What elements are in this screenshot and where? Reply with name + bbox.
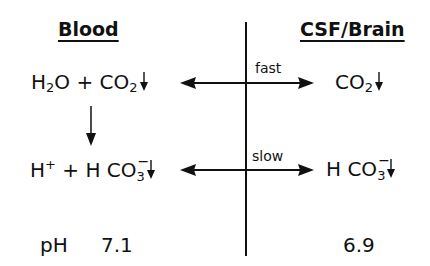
down-arrow-icon	[374, 70, 384, 92]
co2-co: CO	[335, 70, 365, 94]
bicarbonate-subscript: 3	[137, 169, 145, 184]
csf-brain-heading: CSF/Brain	[300, 18, 405, 40]
csf-hco3: H CO3−	[326, 157, 395, 181]
proton-charge: +	[45, 157, 56, 172]
bicarbonate-co: CO	[347, 157, 377, 181]
down-arrow-icon	[139, 70, 149, 92]
csf-co2: CO2	[335, 70, 383, 95]
bicarbonate-subscript: 3	[377, 168, 385, 183]
proton-h: H	[30, 158, 45, 182]
blood-h2o-co2-equation: H2O + CO2	[31, 70, 148, 95]
csf-ph-value: 6.9	[343, 233, 375, 257]
reaction-arrow-icon	[86, 106, 96, 146]
plus-sign: +	[76, 70, 93, 94]
down-arrow-icon	[386, 157, 396, 179]
blood-ph-value: 7.1	[101, 233, 133, 257]
down-arrow-icon	[146, 158, 156, 180]
blood-h-hco3-equation: H+ + H CO3−	[30, 157, 155, 182]
h2o-h: H	[31, 70, 46, 94]
bicarbonate-co: CO	[107, 158, 137, 182]
ph-label: pH	[40, 233, 68, 257]
bicarbonate-h: H	[326, 157, 341, 181]
blood-heading: Blood	[58, 18, 119, 40]
plus-sign: +	[62, 158, 79, 182]
co2-subscript: 2	[365, 80, 373, 95]
bicarbonate-h: H	[85, 158, 100, 182]
slow-label: slow	[252, 148, 283, 164]
fast-label: fast	[255, 60, 281, 76]
co2-co: CO	[100, 70, 130, 94]
h2o-o: O	[54, 70, 70, 94]
co2-subscript: 2	[129, 80, 137, 95]
